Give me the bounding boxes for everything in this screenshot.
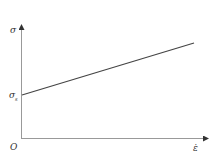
- x-axis-label: ε̇: [193, 143, 198, 153]
- y-axis-label: σ: [10, 25, 17, 35]
- y-intercept-subscript: s: [15, 96, 18, 102]
- origin-label: O: [10, 142, 18, 152]
- data-line: [22, 43, 194, 95]
- chart: σ σ s O ε̇: [0, 0, 219, 157]
